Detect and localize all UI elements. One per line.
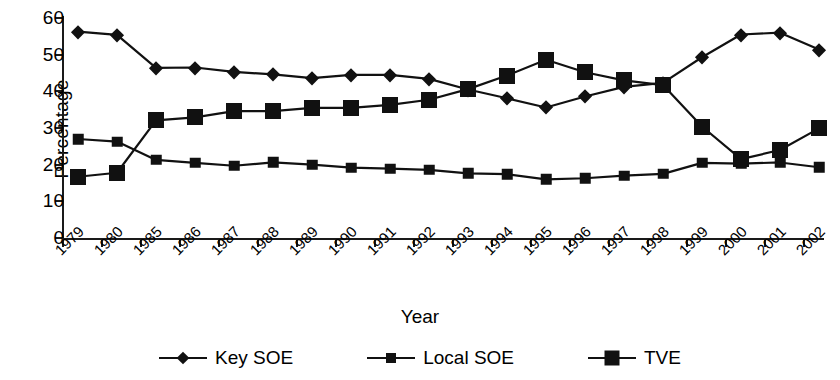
chart-legend: Key SOELocal SOETVE	[0, 348, 840, 367]
data-point-marker	[304, 100, 320, 116]
x-axis-title: Year	[0, 306, 840, 328]
data-point-marker	[616, 72, 632, 88]
data-point-marker	[694, 119, 710, 135]
data-point-marker	[229, 161, 240, 172]
data-point-marker	[73, 134, 84, 145]
legend-item-tve[interactable]: TVE	[588, 348, 681, 367]
data-point-marker	[733, 151, 749, 167]
y-tick-label: 10	[18, 191, 64, 210]
y-tick-label-wrap: 30	[0, 118, 64, 137]
legend-swatch	[159, 350, 207, 366]
y-tick-label-wrap: 50	[0, 45, 64, 64]
data-point-marker	[343, 100, 359, 116]
legend-label: TVE	[644, 348, 681, 367]
data-point-marker	[814, 162, 825, 173]
data-point-marker	[697, 158, 708, 169]
y-tick-label-wrap: 20	[0, 155, 64, 174]
data-point-marker	[421, 92, 437, 108]
data-point-marker	[151, 155, 162, 166]
legend-label: Local SOE	[423, 348, 514, 367]
legend-label: Key SOE	[215, 348, 293, 367]
y-tick-label-wrap: 40	[0, 81, 64, 100]
data-point-marker	[580, 173, 591, 184]
square-small-icon	[386, 353, 396, 363]
y-tick-label: 50	[18, 45, 64, 64]
square-large-icon	[605, 350, 620, 365]
y-tick-label: 40	[18, 81, 64, 100]
data-point-marker	[499, 68, 515, 84]
data-point-marker	[460, 81, 476, 97]
y-tick-label: 30	[18, 118, 64, 137]
y-tick-label: 60	[18, 8, 64, 27]
data-point-marker	[109, 165, 125, 181]
data-point-marker	[265, 103, 281, 119]
data-point-marker	[772, 142, 788, 158]
y-tick-label-wrap: 10	[0, 191, 64, 210]
data-point-marker	[307, 159, 318, 170]
data-point-marker	[655, 77, 671, 93]
percentage-by-year-line-chart: Percentage 0102030405060 197919801985198…	[0, 0, 840, 380]
y-tick-label-wrap: 60	[0, 8, 64, 27]
diamond-icon	[177, 351, 190, 364]
data-point-marker	[811, 120, 827, 136]
data-point-marker	[268, 157, 279, 168]
data-point-marker	[226, 103, 242, 119]
legend-swatch	[367, 350, 415, 366]
legend-item-local-soe[interactable]: Local SOE	[367, 348, 514, 367]
data-point-marker	[775, 157, 786, 168]
data-point-marker	[502, 169, 513, 180]
legend-item-key-soe[interactable]: Key SOE	[159, 348, 293, 367]
plot-area	[63, 18, 823, 238]
legend-swatch	[588, 350, 636, 366]
data-point-marker	[190, 158, 201, 169]
data-point-marker	[538, 52, 554, 68]
data-point-marker	[463, 168, 474, 179]
y-tick-label: 20	[18, 155, 64, 174]
data-point-marker	[658, 169, 669, 180]
data-point-marker	[424, 165, 435, 176]
data-point-marker	[619, 170, 630, 181]
data-point-marker	[577, 64, 593, 80]
data-point-marker	[385, 163, 396, 174]
data-point-marker	[148, 112, 164, 128]
data-point-marker	[112, 136, 123, 147]
data-point-marker	[541, 174, 552, 185]
data-point-marker	[382, 97, 398, 113]
data-point-marker	[187, 109, 203, 125]
data-point-marker	[346, 162, 357, 173]
data-point-marker	[70, 169, 86, 185]
